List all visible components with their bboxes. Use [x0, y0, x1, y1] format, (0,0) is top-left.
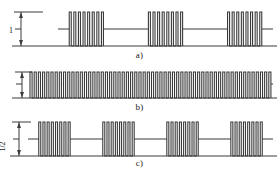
caption-b: b)	[0, 102, 279, 112]
waveform-plot-c	[0, 116, 279, 186]
panel-c: 1	[0, 116, 279, 186]
waveform-figure: 1 a) 1/2 b) 1 c)	[0, 0, 279, 186]
caption-c: c)	[0, 158, 279, 168]
caption-a: a)	[0, 50, 279, 60]
amplitude-label-a: 1	[9, 26, 13, 35]
